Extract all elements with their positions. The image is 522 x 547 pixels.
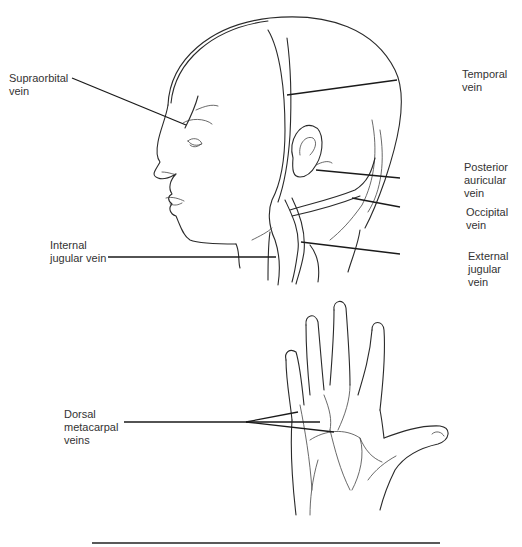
label-posterior-auricular-vein: Posterior auricular vein [464,161,508,200]
label-temporal-vein: Temporal vein [462,68,507,94]
infant-head-drawing [154,17,401,285]
label-dorsal-metacarpal-veins: Dorsal metacarpal veins [64,408,118,447]
illustration [0,0,522,547]
label-supraorbital-vein: Supraorbital vein [9,72,68,98]
head-leader-lines [72,78,400,257]
label-internal-jugular-vein: Internal jugular vein [50,239,106,265]
hand-drawing [286,301,448,515]
label-external-jugular-vein: External jugular vein [468,250,508,289]
label-occipital-vein: Occipital vein [466,206,508,232]
hand-leader-lines [124,412,334,432]
vein-anatomy-figure: Supraorbital vein Temporal vein Posterio… [0,0,522,547]
